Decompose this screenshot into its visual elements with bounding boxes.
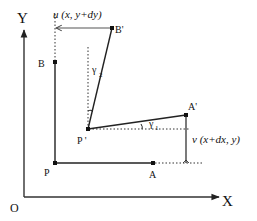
x-axis-label: X: [222, 193, 233, 209]
svg-text:2: 2: [99, 71, 103, 79]
point-b-label: B: [38, 58, 45, 69]
svg-text:γ: γ: [91, 64, 97, 75]
point-p-prime-label: P ': [77, 135, 87, 146]
point-a-prime-label: A': [188, 101, 197, 112]
point-b-prime-label: B': [115, 24, 124, 35]
original-element: [53, 60, 155, 165]
gamma-1-arc: [141, 124, 142, 129]
svg-text:1: 1: [155, 124, 159, 132]
v-displacement-label: v (x+dx, y): [192, 133, 240, 146]
point-p-label: P: [44, 167, 50, 178]
y-axis-label: Y: [17, 10, 28, 26]
origin-label: O: [10, 201, 19, 215]
point-a-label: A: [149, 169, 157, 180]
svg-text:γ: γ: [148, 118, 154, 129]
angle-arcs: [88, 110, 142, 129]
u-displacement-label: u (x, y+dy): [53, 8, 102, 21]
v-displacement-line: [183, 116, 189, 163]
gamma-2-label: γ 2: [91, 64, 103, 79]
deformation-diagram: Y X O B P A P ' A' B' u (x, y+dy) v (x+d…: [0, 0, 257, 221]
